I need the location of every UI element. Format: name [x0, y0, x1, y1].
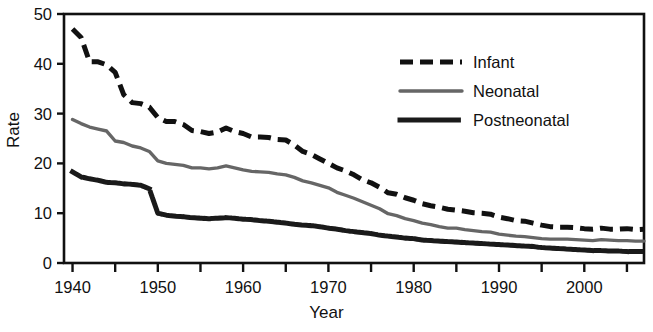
x-axis-tick-label: 1950	[139, 278, 176, 296]
x-axis-tick-label: 1980	[395, 278, 432, 296]
y-axis-tick-label: 10	[34, 204, 52, 222]
y-axis-tick-label: 20	[34, 154, 52, 172]
legend-label-postneonatal: Postneonatal	[473, 111, 569, 129]
y-axis-tick-label: 0	[43, 254, 52, 272]
series-line-neonatal	[73, 120, 644, 242]
x-axis-tick-label: 1940	[54, 278, 91, 296]
x-axis-tick-label: 1970	[310, 278, 347, 296]
x-axis-tick-label: 1990	[481, 278, 518, 296]
x-axis-tick-label: 2000	[566, 278, 603, 296]
infant-mortality-chart: 010203040501940195019601970198019902000I…	[0, 0, 653, 332]
legend-label-infant: Infant	[473, 53, 515, 71]
x-axis-tick-label: 1960	[225, 278, 262, 296]
y-axis-tick-label: 40	[34, 55, 52, 73]
y-axis-tick-label: 30	[34, 105, 52, 123]
y-axis-tick-label: 50	[34, 5, 52, 23]
y-axis-title: Rate	[4, 100, 24, 160]
legend-label-neonatal: Neonatal	[473, 82, 539, 100]
plot-frame	[64, 14, 644, 263]
chart-canvas: 010203040501940195019601970198019902000I…	[0, 0, 653, 332]
x-axis-title: Year	[0, 303, 653, 323]
